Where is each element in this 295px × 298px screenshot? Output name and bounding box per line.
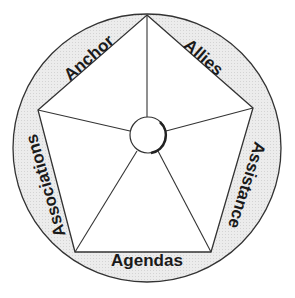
five-a-pentagon-diagram: Anchor Allies Assistance Agendas Associa… xyxy=(0,0,295,298)
center-hub xyxy=(130,117,166,153)
segment-label-agendas: Agendas xyxy=(111,251,183,270)
